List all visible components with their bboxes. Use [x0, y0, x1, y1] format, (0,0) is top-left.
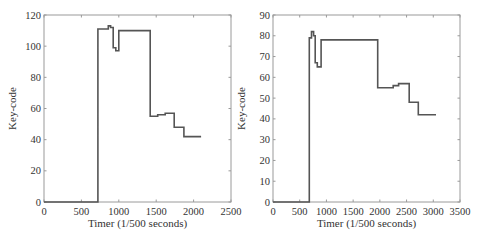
plot-area: [44, 15, 231, 202]
x-tick-label: 1500: [343, 206, 364, 217]
x-tick-label: 1500: [146, 206, 167, 217]
chart-left: Timer (1/500 seconds) Key-code 050010001…: [6, 10, 242, 231]
x-tick-label: 1000: [316, 206, 337, 217]
chart-right: Timer (1/500 seconds) Key-code 050010001…: [235, 10, 471, 231]
y-tick-label: 20: [31, 165, 42, 176]
y-tick-label: 40: [31, 134, 42, 145]
y-axis-label: Key-code: [235, 87, 247, 130]
x-tick-label: 1000: [108, 206, 129, 217]
x-tick-label: 2000: [183, 206, 204, 217]
y-tick-label: 100: [25, 41, 41, 52]
x-tick-label: 0: [41, 206, 46, 217]
chart-figure: Timer (1/500 seconds) Key-code 050010001…: [0, 0, 483, 239]
y-tick-label: 80: [31, 72, 42, 83]
y-tick-label: 30: [260, 134, 271, 145]
y-axis-label: Key-code: [6, 87, 18, 130]
x-tick-label: 0: [270, 206, 275, 217]
y-tick-label: 50: [260, 93, 271, 104]
x-tick-label: 3500: [450, 206, 471, 217]
x-tick-label: 2500: [396, 206, 417, 217]
x-tick-label: 2000: [369, 206, 390, 217]
x-tick-label: 500: [292, 206, 308, 217]
y-tick-label: 0: [36, 197, 41, 208]
x-tick-label: 2500: [221, 206, 242, 217]
y-tick-label: 0: [265, 197, 270, 208]
y-tick-label: 80: [260, 30, 271, 41]
y-tick-label: 120: [25, 10, 41, 21]
y-tick-label: 90: [260, 10, 271, 21]
y-tick-label: 40: [260, 113, 271, 124]
y-tick-label: 70: [260, 51, 271, 62]
y-tick-label: 20: [260, 155, 271, 166]
y-tick-label: 60: [31, 103, 42, 114]
y-tick-label: 10: [260, 176, 271, 187]
y-tick-label: 60: [260, 72, 271, 83]
x-axis-label: Timer (1/500 seconds): [317, 217, 417, 230]
x-axis-label: Timer (1/500 seconds): [88, 217, 188, 230]
x-tick-label: 500: [74, 206, 90, 217]
plot-area: [273, 15, 460, 202]
x-tick-label: 3000: [423, 206, 444, 217]
